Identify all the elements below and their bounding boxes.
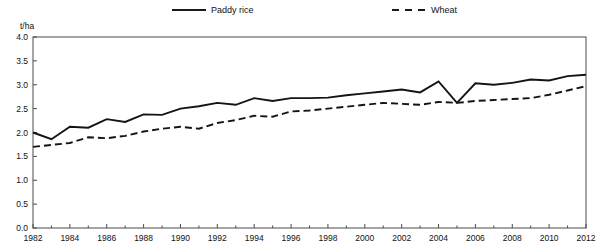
series-layer xyxy=(33,75,586,147)
y-tick-label: 3.0 xyxy=(16,80,28,90)
x-tick-label: 1982 xyxy=(24,233,43,243)
plot-frame xyxy=(33,37,586,228)
chart-root: Paddy rice Wheat t/ha 0.00.51.01.52.02.5… xyxy=(0,0,600,249)
x-tick-label: 2006 xyxy=(466,233,485,243)
x-tick-label: 1988 xyxy=(134,233,153,243)
y-tick-label: 4.0 xyxy=(16,32,28,42)
x-tick-label: 2008 xyxy=(503,233,522,243)
x-tick-label: 1984 xyxy=(60,233,79,243)
y-tick-label: 1.0 xyxy=(16,175,28,185)
x-tick-label: 1986 xyxy=(97,233,116,243)
chart-svg: 0.00.51.01.52.02.53.03.54.01982198419861… xyxy=(0,0,600,249)
axes-layer xyxy=(33,37,586,228)
x-tick-label: 1998 xyxy=(318,233,337,243)
series-line-wheat xyxy=(33,86,586,147)
y-tick-label: 2.0 xyxy=(16,128,28,138)
y-tick-label: 3.5 xyxy=(16,56,28,66)
x-tick-label: 1996 xyxy=(282,233,301,243)
y-tick-label: 0.0 xyxy=(16,223,28,233)
x-tick-label: 1992 xyxy=(208,233,227,243)
x-tick-label: 2002 xyxy=(392,233,411,243)
plot-area: 0.00.51.01.52.02.53.03.54.01982198419861… xyxy=(0,0,600,249)
x-tick-label: 1990 xyxy=(171,233,190,243)
y-tick-label: 2.5 xyxy=(16,104,28,114)
x-tick-label: 2000 xyxy=(355,233,374,243)
x-tick-label: 2010 xyxy=(540,233,559,243)
y-tick-label: 1.5 xyxy=(16,151,28,161)
x-tick-label: 2004 xyxy=(429,233,448,243)
x-tick-label: 1994 xyxy=(245,233,264,243)
y-tick-label: 0.5 xyxy=(16,199,28,209)
x-tick-label: 2012 xyxy=(577,233,596,243)
series-line-paddy-rice xyxy=(33,75,586,139)
